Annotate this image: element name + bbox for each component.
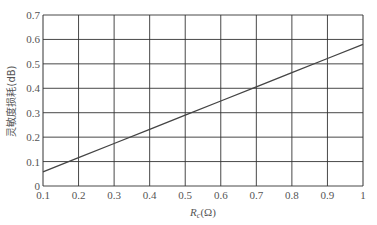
x-tick-label: 0.6 <box>214 189 228 201</box>
x-tick-label: 0.1 <box>36 189 50 201</box>
y-tick-label: 0.1 <box>26 156 40 168</box>
x-axis-label: Rc(Ω) <box>189 206 216 220</box>
y-tick-label: 0.5 <box>26 58 40 70</box>
y-tick-label: 0.4 <box>26 82 40 94</box>
x-tick-label: 0.8 <box>285 189 299 201</box>
y-tick-label: 0.3 <box>26 107 40 119</box>
y-tick-label: 0.2 <box>26 131 40 143</box>
x-tick-label: 0.3 <box>107 189 121 201</box>
y-tick-label: 0.6 <box>26 33 40 45</box>
y-axis-label: 灵敏度损耗(dB) <box>5 65 17 136</box>
x-tick-label: 0.4 <box>143 189 157 201</box>
x-tick-label: 1 <box>360 189 366 201</box>
x-axis-ticks: 0.10.20.30.40.50.60.70.80.91 <box>36 189 366 201</box>
x-tick-label: 0.2 <box>72 189 86 201</box>
y-tick-label: 0.7 <box>26 9 40 21</box>
grid <box>43 15 363 186</box>
line-chart: 00.10.20.30.40.50.60.7 0.10.20.30.40.50.… <box>0 0 377 225</box>
y-axis-ticks: 00.10.20.30.40.50.60.7 <box>26 9 40 192</box>
x-tick-label: 0.9 <box>321 189 335 201</box>
x-tick-label: 0.7 <box>249 189 263 201</box>
x-tick-label: 0.5 <box>178 189 192 201</box>
